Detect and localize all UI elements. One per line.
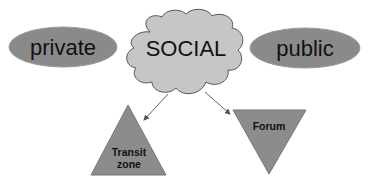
forum-node: Forum: [233, 110, 306, 174]
social-cloud-node: SOCIAL: [127, 9, 243, 93]
private-node: private: [9, 27, 117, 67]
transit-zone-label-line1: Transit: [112, 146, 147, 158]
arrow-social-to-transit: [144, 94, 168, 120]
social-label: SOCIAL: [146, 36, 227, 61]
public-node: public: [250, 28, 360, 68]
public-label: public: [276, 36, 333, 61]
forum-label: Forum: [253, 120, 286, 132]
diagram-canvas: private public SOCIAL Transit zone Forum: [0, 0, 371, 184]
transit-zone-label-line2: zone: [117, 158, 141, 170]
arrow-social-to-forum: [205, 92, 230, 114]
transit-zone-node: Transit zone: [91, 105, 166, 175]
private-label: private: [30, 35, 96, 60]
